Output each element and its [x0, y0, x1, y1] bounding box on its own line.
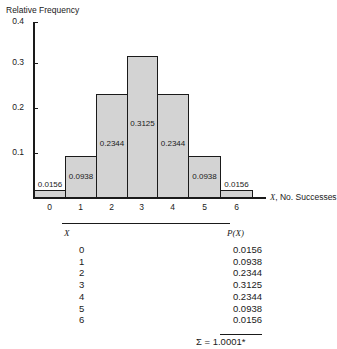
bar-value-label: 0.0938	[65, 172, 97, 181]
y-tick-label: 0.4	[0, 16, 24, 26]
y-axis-label: Relative Frequency	[6, 5, 79, 15]
table-cell-p: 0.3125	[220, 279, 262, 291]
table-header-px: P(X)	[227, 228, 244, 238]
x-axis-label-text: , No. Successes	[275, 192, 336, 202]
table-cell-x: 2	[79, 267, 84, 279]
x-tick-label: 6	[221, 202, 252, 212]
x-tick-label: 2	[96, 202, 127, 212]
table-cell-x: 5	[79, 303, 84, 315]
bar-value-label: 0.2344	[157, 139, 189, 148]
table-cell-p: 0.0938	[220, 256, 262, 268]
table-p-column: 0.0156 0.0938 0.2344 0.3125 0.2344 0.093…	[220, 244, 262, 326]
table-cell-x: 1	[79, 256, 84, 268]
y-axis	[33, 22, 35, 198]
bar-value-label: 0.2344	[96, 139, 128, 148]
y-tick	[34, 108, 38, 109]
x-tick-label: 4	[157, 202, 188, 212]
y-tick-label: 0.3	[0, 57, 24, 67]
table-cell-p: 0.0156	[220, 314, 262, 326]
table-cell-p: 0.2344	[220, 291, 262, 303]
bar-value-label: 0.3125	[127, 119, 158, 128]
x-axis-label: X, No. Successes	[270, 192, 337, 202]
table-header-x: X	[64, 228, 70, 238]
table-cell-x: 6	[79, 314, 84, 326]
x-tick-label: 3	[126, 202, 157, 212]
x-tick-label: 1	[65, 202, 96, 212]
x-tick-label: 5	[189, 202, 220, 212]
y-tick	[34, 153, 38, 154]
bar-value-label: 0.0156	[220, 180, 253, 189]
x-axis	[33, 197, 266, 199]
y-tick	[34, 63, 38, 64]
x-tick-label: 0	[34, 202, 65, 212]
sum-rule	[220, 334, 262, 335]
table-cell-x: 3	[79, 279, 84, 291]
table-top-rule	[62, 223, 230, 224]
table-sum: Σ = 1.0001*	[196, 336, 245, 348]
y-tick-label: 0.1	[0, 147, 24, 157]
table-cell-p: 0.0156	[220, 244, 262, 256]
table-cell-p: 0.2344	[220, 267, 262, 279]
table-cell-x: 4	[79, 291, 84, 303]
y-tick	[34, 22, 38, 23]
bar-value-label: 0.0156	[34, 180, 66, 189]
table-cell-p: 0.0938	[220, 303, 262, 315]
table-x-column: 0 1 2 3 4 5 6	[79, 244, 84, 326]
y-tick-label: 0.2	[0, 102, 24, 112]
table-cell-x: 0	[79, 244, 84, 256]
bar-value-label: 0.0938	[188, 172, 221, 181]
